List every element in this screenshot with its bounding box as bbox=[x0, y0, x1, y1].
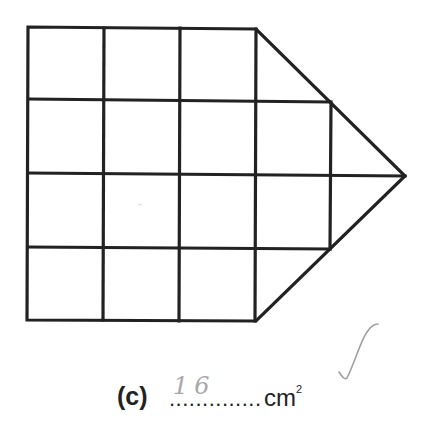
grid-line-h1 bbox=[29, 99, 330, 102]
unit-label: cm2 bbox=[264, 384, 302, 412]
area-shape-figure bbox=[0, 0, 426, 340]
grid-line-h3 bbox=[28, 247, 330, 249]
grid-line-h2 bbox=[28, 173, 405, 176]
check-mark-icon bbox=[335, 322, 395, 392]
handwritten-answer: 16 bbox=[173, 372, 216, 400]
pencil-smudge bbox=[138, 204, 142, 205]
unit-superscript: 2 bbox=[296, 383, 302, 395]
part-label: (c) bbox=[117, 382, 148, 411]
unit-text: cm bbox=[264, 384, 296, 411]
